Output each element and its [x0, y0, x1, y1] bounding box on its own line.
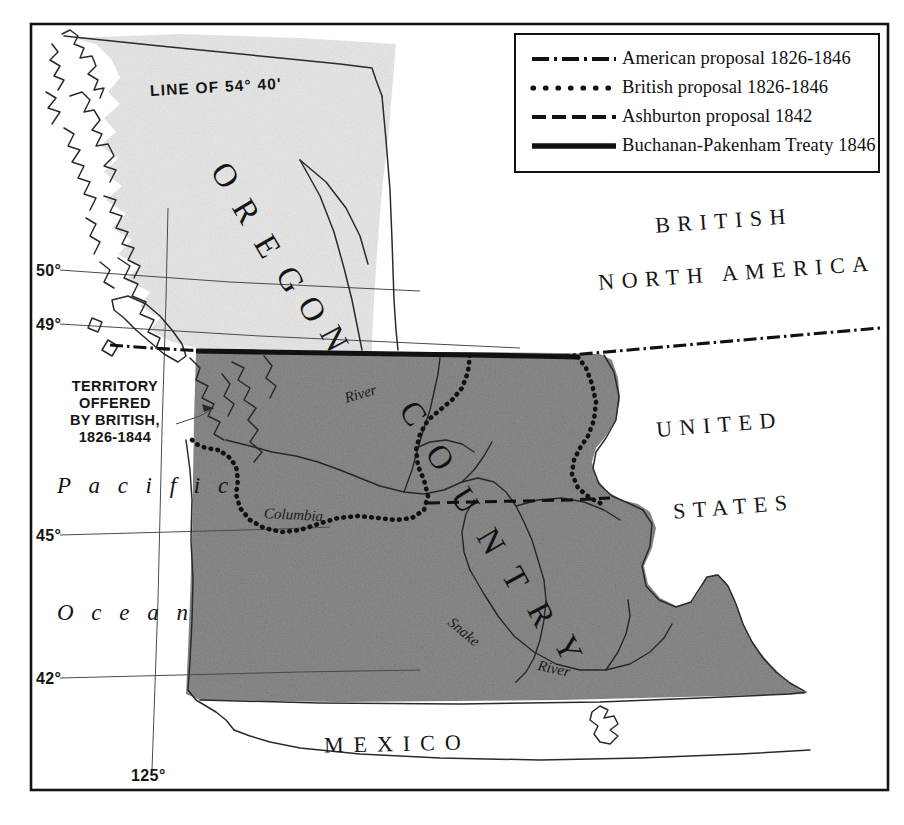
- legend-label-ashburton: Ashburton proposal 1842: [622, 106, 812, 127]
- label-mexico: MEXICO: [324, 729, 471, 758]
- label-latitude-49: 49°: [36, 316, 61, 334]
- dash-dot-line-icon: [530, 52, 622, 66]
- callout-line-2: OFFERED: [70, 395, 160, 412]
- callout-territory-offered: TERRITORY OFFERED BY BRITISH, 1826-1844: [70, 378, 160, 446]
- label-columbia-river: Columbia: [264, 505, 324, 525]
- legend-row-british[interactable]: British proposal 1826-1846: [516, 73, 878, 102]
- map-legend: American proposal 1826-1846 British prop…: [514, 33, 880, 173]
- solid-line-icon: [530, 139, 622, 153]
- legend-label-british: British proposal 1826-1846: [622, 77, 828, 98]
- label-ocean: O c e a n: [57, 600, 194, 626]
- dashed-line-icon: [530, 110, 622, 124]
- label-longitude-125: 125°: [131, 767, 166, 785]
- legend-row-ashburton[interactable]: Ashburton proposal 1842: [516, 102, 878, 131]
- callout-line-3: BY BRITISH,: [70, 412, 160, 429]
- legend-row-treaty[interactable]: Buchanan-Pakenham Treaty 1846: [516, 131, 878, 160]
- dotted-line-icon: [530, 81, 622, 95]
- callout-line-1: TERRITORY: [70, 378, 160, 395]
- label-latitude-50: 50°: [36, 262, 61, 280]
- legend-row-american[interactable]: American proposal 1826-1846: [516, 44, 878, 73]
- legend-label-treaty: Buchanan-Pakenham Treaty 1846: [622, 135, 876, 156]
- legend-label-american: American proposal 1826-1846: [622, 48, 851, 69]
- callout-line-4: 1826-1844: [70, 429, 160, 446]
- label-latitude-45: 45°: [36, 527, 61, 545]
- label-pacific: P a c i f i c: [57, 473, 234, 499]
- map-figure: American proposal 1826-1846 British prop…: [0, 0, 904, 825]
- label-latitude-42: 42°: [36, 670, 61, 688]
